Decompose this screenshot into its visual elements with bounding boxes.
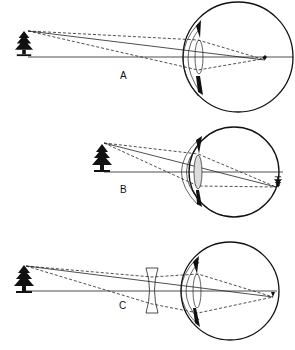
concave-corrective-lens (146, 268, 158, 313)
image-point (262, 55, 267, 60)
chief-ray (28, 31, 265, 60)
panel-label-c: C (119, 300, 126, 311)
tree-object-icon (14, 265, 34, 293)
tree-object-icon (15, 31, 33, 56)
panel-b: B (92, 127, 283, 217)
panel-label-b: B (120, 184, 127, 195)
tree-object-icon (92, 144, 112, 172)
iris-upper (196, 136, 202, 154)
inverted-image-icon (274, 176, 282, 187)
iris-lower (196, 190, 202, 207)
iris-lower (196, 76, 203, 95)
crystalline-lens (194, 155, 202, 189)
myopia-diagram: A B C (0, 0, 295, 350)
panel-a: A (15, 2, 293, 112)
panel-label-a: A (120, 70, 127, 81)
iris-upper (196, 20, 201, 38)
panel-c: C (14, 242, 279, 340)
image-point (271, 292, 275, 297)
